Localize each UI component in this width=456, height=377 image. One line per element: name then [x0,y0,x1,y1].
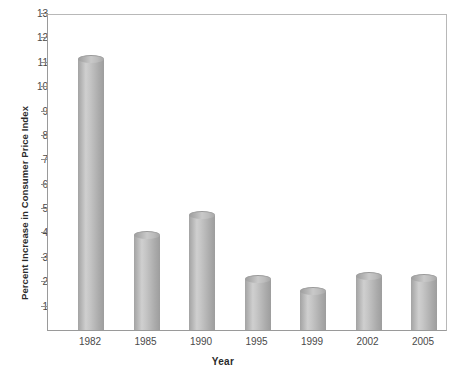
bar-cap-ellipse [300,287,326,295]
y-axis-tick: 4 [0,228,48,238]
y-axis-tick: 12 [0,33,48,43]
bar [189,215,215,330]
y-axis-tick: 7 [0,155,48,165]
y-axis-tick-label: 13 [26,9,48,19]
bar [356,276,382,330]
x-axis-tick-label: 1999 [289,336,335,347]
bar-cap-ellipse [356,272,382,280]
bar-cap-ellipse [245,275,271,283]
y-axis-tick: 5 [0,204,48,214]
y-axis-tick: 1 [0,302,48,312]
x-axis-tick-label: 2005 [400,336,446,347]
y-axis-tick-label: 11 [26,58,48,68]
y-axis-tick: 10 [0,82,48,92]
y-axis-tick-label: 2 [26,277,48,287]
bar [78,59,104,330]
x-axis-tick-label: 1995 [234,336,280,347]
y-axis-tick: 8 [0,131,48,141]
x-axis-tick-label: 1982 [67,336,113,347]
y-axis-tick: 9 [0,107,48,117]
bar [300,291,326,330]
bar-cap-ellipse [411,274,437,282]
y-axis-tick: 2 [0,277,48,287]
y-axis-tick-label: 8 [26,131,48,141]
bar [134,235,160,330]
y-axis-tick: 3 [0,253,48,263]
y-axis-tick-label: 3 [26,253,48,263]
y-axis-tick-label: 5 [26,204,48,214]
y-axis-tick-label: 1 [26,302,48,312]
y-axis-tick-label: 12 [26,33,48,43]
y-axis-tick: 13 [0,9,48,19]
y-axis-tick: 6 [0,180,48,190]
y-axis-tick-label: 6 [26,180,48,190]
x-axis-tick-label: 2002 [345,336,391,347]
bar [245,279,271,330]
y-axis-tick-label: 7 [26,155,48,165]
bar-cap-ellipse [78,55,104,63]
plot-area [47,14,447,331]
x-axis-tick-label: 1990 [178,336,224,347]
x-axis-title: Year [45,356,401,367]
x-axis-tick-label: 1985 [123,336,169,347]
bar [411,278,437,330]
y-axis-tick-label: 4 [26,228,48,238]
y-axis-tick-label: 10 [26,82,48,92]
y-axis-tick: 11 [0,58,48,68]
y-axis-tick-label: 9 [26,107,48,117]
bar-chart: Percent Increase in Consumer Price Index… [0,0,456,377]
bar-cap-ellipse [189,211,215,219]
bar-cap-ellipse [134,231,160,239]
